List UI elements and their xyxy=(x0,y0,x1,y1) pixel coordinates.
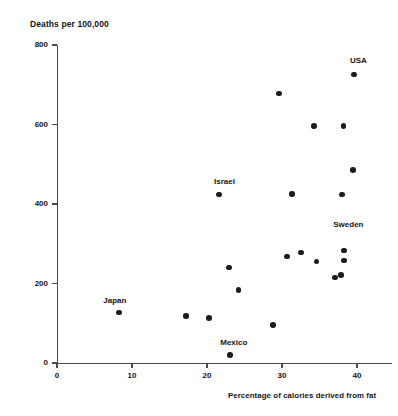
y-tick-mark xyxy=(52,283,57,284)
x-axis-line xyxy=(57,363,392,364)
point-label-israel: Israel xyxy=(214,177,235,186)
y-axis-title: Deaths per 100,000 xyxy=(30,19,109,29)
y-tick-mark xyxy=(52,203,57,204)
point-label-japan: Japan xyxy=(103,296,126,305)
x-tick-mark xyxy=(206,363,207,368)
data-point xyxy=(276,91,282,97)
data-point xyxy=(338,272,344,278)
x-tick-label: 0 xyxy=(42,371,72,380)
data-point xyxy=(183,313,189,319)
data-point xyxy=(284,254,290,260)
data-point xyxy=(314,259,320,265)
y-tick-mark xyxy=(52,124,57,125)
y-tick-mark xyxy=(52,44,57,45)
data-point xyxy=(341,258,347,264)
x-tick-mark xyxy=(131,363,132,368)
y-tick-label: 400 xyxy=(18,199,48,208)
data-point xyxy=(236,287,242,293)
data-point-mexico xyxy=(227,352,233,358)
x-tick-label: 10 xyxy=(117,371,147,380)
data-point xyxy=(350,167,356,173)
x-tick-mark xyxy=(56,363,57,368)
data-point xyxy=(341,123,347,129)
x-tick-mark xyxy=(281,363,282,368)
y-tick-label: 200 xyxy=(18,279,48,288)
x-tick-mark xyxy=(356,363,357,368)
data-point xyxy=(332,275,338,281)
scatter-chart: Deaths per 100,000 0200400600800 0102030… xyxy=(0,0,398,416)
data-point-japan xyxy=(116,310,122,316)
data-point xyxy=(339,192,345,198)
data-point xyxy=(206,315,212,321)
data-point-israel xyxy=(216,192,222,198)
x-tick-label: 30 xyxy=(267,371,297,380)
point-label-mexico: Mexico xyxy=(220,338,247,347)
data-point xyxy=(311,123,317,129)
data-point xyxy=(298,250,304,256)
x-tick-label: 20 xyxy=(192,371,222,380)
x-tick-label: 40 xyxy=(342,371,372,380)
y-tick-label: 0 xyxy=(18,358,48,367)
data-point-sweden xyxy=(341,248,347,254)
data-point xyxy=(289,191,295,197)
data-point-usa xyxy=(351,72,357,78)
y-tick-label: 800 xyxy=(18,40,48,49)
point-label-usa: USA xyxy=(350,56,367,65)
y-axis-line xyxy=(57,45,58,364)
y-tick-label: 600 xyxy=(18,120,48,129)
point-label-sweden: Sweden xyxy=(333,220,363,229)
x-axis-title: Percentage of calories derived from fat xyxy=(228,391,376,400)
data-point xyxy=(270,322,276,328)
data-point xyxy=(226,265,232,271)
